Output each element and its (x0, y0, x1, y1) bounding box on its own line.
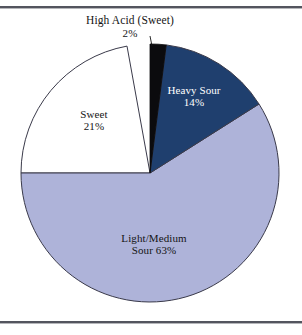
pie-slice-sweet[interactable] (21, 46, 150, 173)
pie-chart-svg (0, 10, 302, 315)
pie-chart: High Acid (Sweet) 2% Heavy Sour 14% Swee… (0, 10, 302, 315)
top-divider-rule (0, 6, 302, 8)
bottom-divider-rule (0, 321, 302, 323)
figure-panel: High Acid (Sweet) 2% Heavy Sour 14% Swee… (0, 0, 302, 335)
